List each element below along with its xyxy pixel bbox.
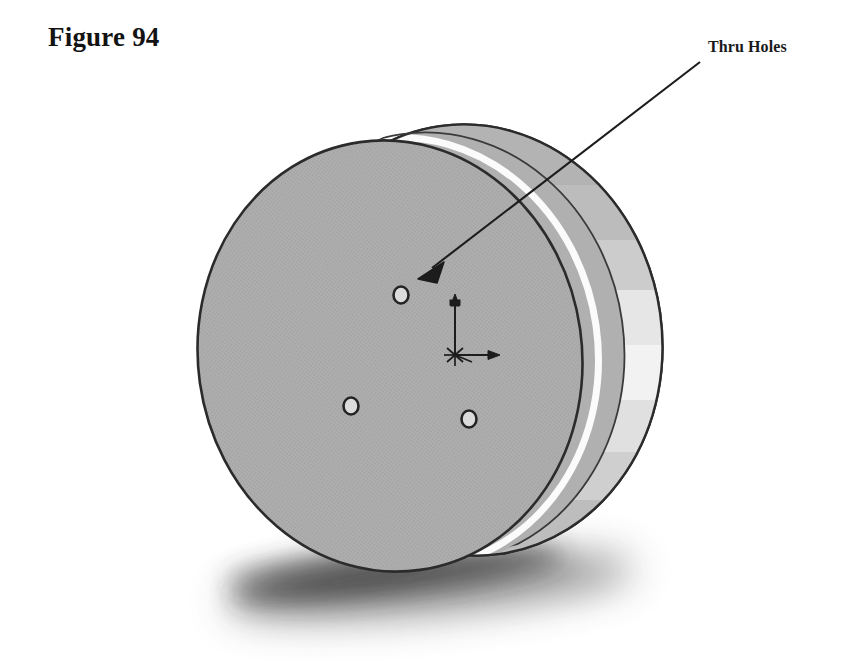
thru-hole-upper [394,287,409,304]
thru-hole-lower-right [462,411,477,428]
figure-page: Figure 94 Thru Holes [0,0,856,661]
thru-hole-lower-left [344,398,359,415]
cylinder-illustration [0,0,856,661]
